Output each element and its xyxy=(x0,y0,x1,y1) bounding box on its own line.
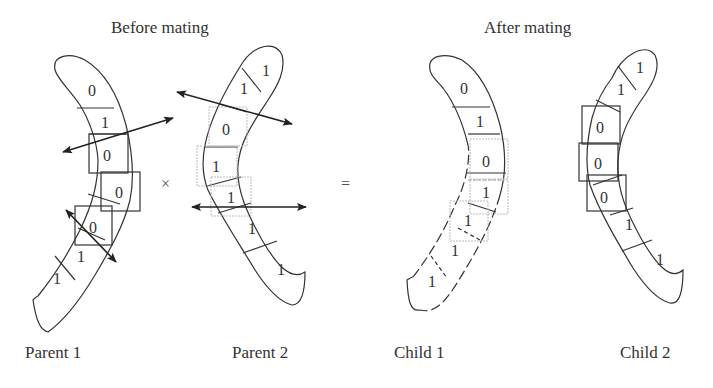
gene: 1 xyxy=(77,248,85,265)
gene: 1 xyxy=(53,270,61,287)
gene: 1 xyxy=(617,81,625,98)
chromosome-parent-2 xyxy=(203,46,305,305)
gene: 1 xyxy=(248,220,256,237)
gene: 0 xyxy=(222,121,230,138)
gene: 1 xyxy=(464,212,472,229)
gene: 0 xyxy=(594,155,602,172)
gene: 1 xyxy=(476,113,484,130)
gene: 1 xyxy=(227,189,235,206)
dashed-boxes-child-1 xyxy=(450,139,508,241)
genes-parent-2: 1 1 0 1 1 1 1 xyxy=(212,62,285,278)
gene: 1 xyxy=(428,273,436,290)
genes-child-2: 1 1 0 0 0 1 1 xyxy=(594,59,664,268)
mating-diagram: 0 1 0 0 0 1 1 1 1 0 1 1 1 1 xyxy=(0,0,713,388)
genes-child-1: 0 1 0 1 1 1 1 xyxy=(428,80,490,290)
gene: 0 xyxy=(482,153,490,170)
gene: 1 xyxy=(625,216,633,233)
gene: 1 xyxy=(240,80,248,97)
gene: 0 xyxy=(115,184,123,201)
chromosome-child-1 xyxy=(407,56,506,311)
gene: 1 xyxy=(482,184,490,201)
gene: 1 xyxy=(262,62,270,79)
gene: 0 xyxy=(89,219,97,236)
gene: 1 xyxy=(656,251,664,268)
gene: 0 xyxy=(103,147,111,164)
gene: 1 xyxy=(636,59,644,76)
chromosome-child-2 xyxy=(579,50,683,303)
gene: 0 xyxy=(596,119,604,136)
gene: 1 xyxy=(212,158,220,175)
gene: 0 xyxy=(88,82,96,99)
genes-parent-1: 0 1 0 0 0 1 1 xyxy=(53,82,123,287)
gene: 0 xyxy=(600,189,608,206)
gene: 0 xyxy=(460,80,468,97)
chromosome-parent-1 xyxy=(33,56,173,332)
gene: 1 xyxy=(277,261,285,278)
gene: 1 xyxy=(101,114,109,131)
gene: 1 xyxy=(451,242,459,259)
